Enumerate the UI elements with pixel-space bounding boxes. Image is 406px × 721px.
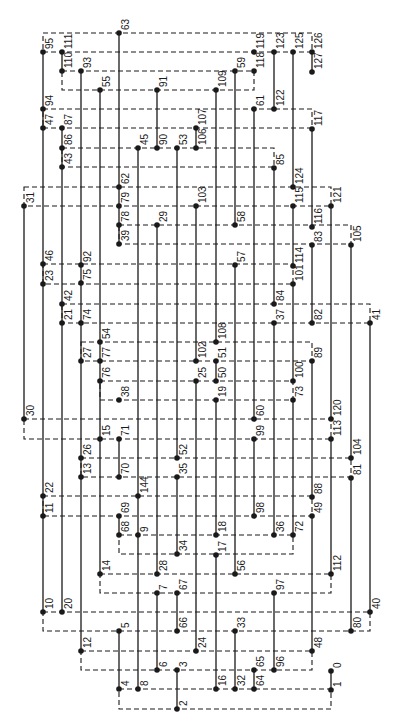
- node-dot: [232, 686, 238, 692]
- node-label: 55: [101, 75, 112, 87]
- node-dot: [116, 241, 122, 247]
- node-dot: [174, 551, 180, 557]
- node-label: 31: [25, 191, 36, 203]
- node-dot: [154, 145, 160, 151]
- node: 123: [271, 32, 286, 55]
- node-label: 13: [82, 462, 93, 474]
- node-dot: [213, 532, 219, 538]
- node-dot: [174, 455, 180, 461]
- node-label: 54: [101, 327, 112, 339]
- node-label: 122: [275, 89, 286, 106]
- node-dot: [116, 203, 122, 209]
- node-dot: [309, 69, 315, 75]
- node: 105: [348, 225, 363, 248]
- node-label: 32: [236, 674, 247, 686]
- node-label: 23: [44, 269, 55, 281]
- node: 117: [309, 110, 324, 132]
- node-label: 81: [352, 463, 363, 475]
- node-dot: [78, 68, 84, 74]
- node-label: 74: [82, 308, 93, 320]
- node-label: 17: [217, 540, 228, 552]
- node-dot: [232, 68, 238, 74]
- node-dot: [213, 397, 219, 403]
- node-dot: [78, 474, 84, 480]
- node-dot: [290, 378, 296, 384]
- node: 17: [213, 540, 228, 557]
- node-label: 82: [313, 308, 324, 320]
- node-label: 52: [178, 443, 189, 455]
- node-label: 48: [313, 636, 324, 648]
- node-dot: [40, 49, 46, 55]
- node-dot: [59, 125, 65, 131]
- node-dot: [309, 358, 315, 364]
- node-dot: [59, 320, 65, 326]
- node-dot: [116, 397, 122, 403]
- node-label: 116: [313, 208, 324, 224]
- node-label: 57: [236, 250, 247, 262]
- node-dot: [309, 126, 315, 132]
- node-label: 59: [236, 56, 247, 68]
- node-label: 4: [120, 680, 131, 686]
- node-label: 34: [178, 539, 189, 551]
- node-label: 69: [120, 501, 131, 513]
- node-dot: [251, 68, 257, 74]
- node-dot: [213, 87, 219, 93]
- node-dot: [251, 667, 257, 673]
- node-dot: [213, 686, 219, 692]
- node-label: 85: [275, 153, 286, 165]
- node-label: 49: [313, 501, 324, 513]
- node-dot: [116, 628, 122, 634]
- node: 125: [290, 32, 305, 55]
- node-label: 113: [332, 420, 343, 436]
- node-label: 53: [178, 133, 189, 145]
- node-label: 61: [255, 94, 266, 106]
- node-dot: [135, 145, 141, 151]
- node-dot: [154, 87, 160, 93]
- node-label: 39: [120, 229, 131, 241]
- node-dot: [40, 609, 46, 615]
- node: 3: [174, 661, 189, 673]
- node-dot: [251, 106, 257, 112]
- node-label: 91: [158, 75, 169, 87]
- node-label: 114: [294, 247, 305, 263]
- node-dot: [348, 628, 354, 634]
- node-dot: [271, 106, 277, 112]
- node: 126: [309, 32, 324, 55]
- node-dot: [78, 262, 84, 268]
- node-label: 127: [313, 52, 324, 69]
- node-label: 0: [332, 662, 343, 668]
- node-label: 30: [25, 404, 36, 416]
- node-label: 66: [178, 616, 189, 628]
- node-dot: [290, 532, 296, 538]
- node-dot: [116, 222, 122, 228]
- node: 113: [328, 420, 343, 442]
- node-label: 2: [178, 700, 189, 706]
- node-dot: [271, 49, 277, 55]
- node: 85: [271, 153, 286, 170]
- node-dot: [116, 686, 122, 692]
- node-label: 28: [158, 559, 169, 571]
- node-dot: [251, 436, 257, 442]
- node-dot: [213, 358, 219, 364]
- node-label: 15: [101, 424, 112, 436]
- node-label: 27: [82, 346, 93, 358]
- node-dot: [193, 648, 199, 654]
- node-label: 41: [371, 308, 382, 320]
- node-dot: [174, 474, 180, 480]
- node-label: 62: [120, 172, 131, 184]
- node-label: 84: [275, 289, 286, 301]
- node-label: 21: [63, 308, 74, 320]
- node-dot: [271, 165, 277, 171]
- node-label: 124: [294, 167, 305, 184]
- node-label: 78: [120, 210, 131, 222]
- node-dot: [193, 203, 199, 209]
- node-dot: [193, 378, 199, 384]
- node-label: 38: [120, 385, 131, 397]
- node-dot: [290, 203, 296, 209]
- node-dot: [309, 224, 315, 230]
- node-label: 16: [217, 674, 228, 686]
- node-dot: [78, 648, 84, 654]
- node-label: 40: [371, 597, 382, 609]
- node-label: 10: [44, 597, 55, 609]
- node-dot: [367, 609, 373, 615]
